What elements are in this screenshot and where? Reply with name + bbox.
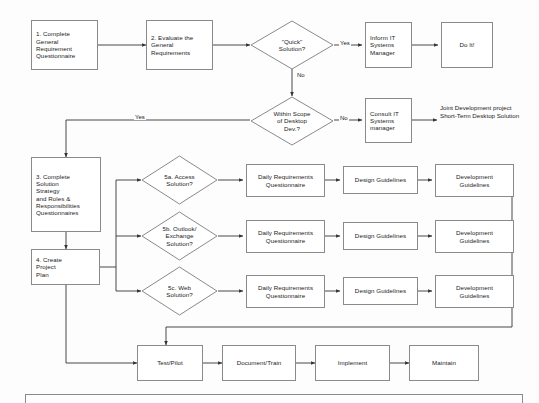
node-implement[interactable]: Implement — [315, 345, 390, 381]
node-consult-it[interactable]: Consult IT Systems manager — [365, 98, 412, 143]
node-design-guidelines-a[interactable]: Design Guidelines — [343, 166, 418, 194]
node-design-guidelines-b[interactable]: Design Guidelines — [343, 222, 418, 250]
node-development-guidelines-a[interactable]: Development Guidelines — [435, 164, 514, 197]
decision-5a-access-label: 5a. Access Solution? — [164, 173, 195, 188]
decision-within-scope[interactable]: Within Scope of Desktop Dev.? — [250, 96, 334, 146]
node-test-pilot-label: Test/Pilot — [155, 359, 185, 366]
node-development-guidelines-c[interactable]: Development Guidelines — [435, 275, 514, 308]
node-step4-label: 4. Create Project Plan — [32, 256, 99, 278]
node-test-pilot[interactable]: Test/Pilot — [137, 345, 203, 381]
node-daily-requirements-b[interactable]: Daily Requirements Questionnaire — [246, 220, 325, 253]
node-do-it-label: Do It! — [457, 41, 476, 48]
node-maintain-label: Maintain — [430, 359, 458, 366]
node-document-train-label: Document/Train — [235, 359, 284, 366]
node-maintain[interactable]: Maintain — [409, 345, 479, 381]
node-daily-requirements-c-label: Daily Requirements Questionnaire — [256, 284, 315, 299]
node-step3[interactable]: 3. Complete Solution Strategy and Roles … — [31, 157, 101, 232]
decision-quick-solution[interactable]: "Quick" Solution? — [250, 20, 334, 70]
decision-quick-solution-label: "Quick" Solution? — [279, 38, 305, 53]
edge-label-scope-yes: Yes — [134, 114, 146, 120]
outcome-bullet-1: Short-Term Desktop Solution — [440, 112, 538, 120]
node-daily-requirements-a-label: Daily Requirements Questionnaire — [256, 173, 315, 188]
node-daily-requirements-b-label: Daily Requirements Questionnaire — [256, 229, 315, 244]
decision-5b-outlook-exchange-label: 5b. Outlook/ Exchange Solution? — [162, 225, 196, 247]
decision-5c-web[interactable]: 5c. Web Solution? — [141, 266, 218, 316]
edge-label-scope-no: No — [339, 115, 349, 121]
node-design-guidelines-c-label: Design Guidelines — [353, 287, 408, 294]
node-step1-label: 1. Complete General Requirement Question… — [32, 30, 97, 59]
node-daily-requirements-c[interactable]: Daily Requirements Questionnaire — [246, 275, 325, 308]
flowchart-canvas: 1. Complete General Requirement Question… — [0, 0, 539, 403]
node-design-guidelines-b-label: Design Guidelines — [353, 232, 408, 239]
node-daily-requirements-a[interactable]: Daily Requirements Questionnaire — [246, 164, 325, 197]
node-implement-label: Implement — [336, 359, 369, 366]
node-development-guidelines-b[interactable]: Development Guidelines — [435, 220, 514, 253]
node-step1[interactable]: 1. Complete General Requirement Question… — [31, 20, 98, 70]
outcome-bullet-list: Joint Development project Short-Term Des… — [440, 104, 538, 121]
node-design-guidelines-a-label: Design Guidelines — [353, 176, 408, 183]
node-step4[interactable]: 4. Create Project Plan — [31, 249, 100, 285]
decision-5a-access[interactable]: 5a. Access Solution? — [141, 155, 218, 205]
outcome-bullet-0: Joint Development project — [440, 104, 538, 112]
edge-label-quick-yes: Yes — [339, 40, 351, 46]
node-step2-label: 2. Evaluate the General Requirements — [147, 34, 212, 56]
node-consult-it-label: Consult IT Systems manager — [366, 110, 411, 132]
decision-within-scope-label: Within Scope of Desktop Dev.? — [273, 110, 310, 132]
node-document-train[interactable]: Document/Train — [222, 345, 296, 381]
edge-label-quick-no: No — [296, 72, 306, 78]
node-development-guidelines-a-label: Development Guidelines — [454, 173, 495, 188]
decision-5b-outlook-exchange[interactable]: 5b. Outlook/ Exchange Solution? — [141, 211, 218, 261]
decision-5c-web-label: 5c. Web Solution? — [166, 284, 192, 299]
node-do-it[interactable]: Do It! — [441, 22, 493, 68]
node-step2[interactable]: 2. Evaluate the General Requirements — [146, 20, 213, 70]
node-step3-label: 3. Complete Solution Strategy and Roles … — [32, 173, 100, 217]
node-development-guidelines-b-label: Development Guidelines — [454, 229, 495, 244]
node-design-guidelines-c[interactable]: Design Guidelines — [343, 277, 418, 305]
node-inform-it-label: Inform IT Systems Manager — [366, 34, 411, 56]
footer-frame-partial — [25, 394, 523, 403]
node-inform-it[interactable]: Inform IT Systems Manager — [365, 22, 412, 68]
node-development-guidelines-c-label: Development Guidelines — [454, 284, 495, 299]
